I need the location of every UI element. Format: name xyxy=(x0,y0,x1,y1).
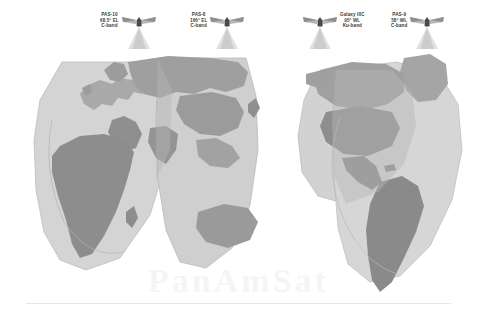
satellite-label-pas-9: PAS-9 58° WL C-band xyxy=(391,8,407,29)
satellite-band: Ku-band xyxy=(340,23,365,29)
satellite-callout-pas-10: PAS-10 68.5° EL C-band xyxy=(100,8,159,50)
satellite-icon xyxy=(407,8,447,50)
satellite-icon xyxy=(119,8,159,50)
satellite-band: C-band xyxy=(190,23,207,29)
satellite-name: PAS-9 xyxy=(391,12,407,18)
bottom-rule xyxy=(26,303,451,304)
satellite-band: C-band xyxy=(391,23,407,29)
satellite-label-galaxy-iiic: Galaxy IIIC 95° WL Ku-band xyxy=(340,8,365,29)
satellite-label-pas-10: PAS-10 68.5° EL C-band xyxy=(100,8,119,29)
satellite-name: PAS-10 xyxy=(100,12,119,18)
satellite-callout-pas-8: PAS-8 166° EL C-band xyxy=(190,8,247,50)
satellite-coverage-map: PanAmSat PAS-10 68.5° EL C-band xyxy=(0,0,477,314)
satellite-icon xyxy=(207,8,247,50)
satellite-label-pas-8: PAS-8 166° EL C-band xyxy=(190,8,207,29)
satellite-callout-pas-9: PAS-9 58° WL C-band xyxy=(391,8,447,50)
satellite-callout-galaxy-iiic: Galaxy IIIC 95° WL Ku-band xyxy=(300,8,365,50)
satellite-band: C-band xyxy=(100,23,119,29)
satellite-icon xyxy=(300,8,340,50)
satellite-name: PAS-8 xyxy=(190,12,207,18)
satellite-name: Galaxy IIIC xyxy=(340,12,365,18)
